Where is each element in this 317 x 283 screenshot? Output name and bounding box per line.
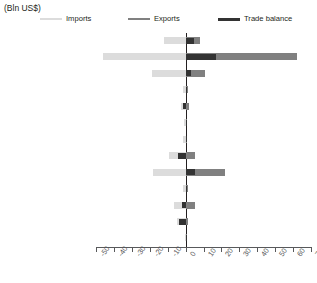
bar-imports — [152, 70, 186, 77]
x-tick — [221, 247, 222, 252]
chart-row: Sub-Saharan Africa — [96, 132, 311, 148]
bar-trade-balance — [186, 136, 187, 142]
chart-row: Developed N. America — [96, 66, 311, 82]
x-tick-label: 20 — [223, 246, 235, 258]
legend-swatch-imports — [40, 18, 62, 20]
chart-row: Latin Am, Caribbean — [96, 148, 311, 164]
x-tick — [293, 247, 294, 252]
chart-legend: Imports Exports Trade balance — [40, 13, 315, 25]
x-tick — [150, 247, 151, 252]
bar-trade-balance — [178, 153, 185, 159]
x-tick-label: 10 — [206, 246, 218, 258]
x-tick-label: 50 — [277, 246, 289, 258]
x-tick — [114, 247, 115, 252]
plot-area: Developed Asia-PacificDeveloped EuropeDe… — [96, 33, 311, 247]
x-tick — [96, 247, 97, 252]
bar-trade-balance — [186, 54, 216, 60]
chart-row: Eastern Asia — [96, 165, 311, 181]
x-tick-label: 70 — [313, 246, 317, 258]
bar-imports — [164, 37, 186, 44]
bar-trade-balance — [186, 38, 194, 44]
x-tick — [257, 247, 258, 252]
x-tick — [204, 247, 205, 252]
x-tick-label: 60 — [295, 246, 307, 258]
x-tick-label: 40 — [259, 246, 271, 258]
chart-row: South-eastern Europe — [96, 82, 311, 98]
bar-trade-balance — [183, 103, 186, 109]
bar-trade-balance — [186, 235, 187, 241]
bar-exports — [186, 202, 195, 209]
chart-row: Developed Europe — [96, 49, 311, 65]
bar-trade-balance — [182, 202, 186, 208]
chart-row: Oceania — [96, 231, 311, 247]
bar-exports — [186, 103, 190, 110]
bar-trade-balance — [186, 70, 191, 76]
x-tick — [311, 247, 312, 252]
bar-trade-balance — [186, 120, 187, 126]
legend-swatch-trade-balance — [218, 18, 240, 21]
x-tick — [239, 247, 240, 252]
legend-label-trade-balance: Trade balance — [244, 13, 292, 25]
bar-exports — [186, 152, 195, 159]
x-tick — [132, 247, 133, 252]
chart-row: C I S — [96, 99, 311, 115]
x-tick-label: 0 — [188, 250, 198, 259]
legend-item-exports: Exports — [128, 13, 180, 25]
legend-item-trade-balance: Trade balance — [218, 13, 292, 25]
bar-trade-balance — [179, 219, 185, 225]
x-tick-label: 30 — [241, 246, 253, 258]
x-tick — [168, 247, 169, 252]
chart-row: Western Asia — [96, 214, 311, 230]
legend-label-imports: Imports — [66, 13, 91, 25]
chart-row: Southern Asia — [96, 181, 311, 197]
bar-trade-balance — [186, 169, 195, 175]
chart-row: Developed Asia-Pacific — [96, 33, 311, 49]
trade-balance-chart: (Bln US$) Imports Exports Trade balance … — [0, 0, 317, 283]
chart-row: South-eastern Asia — [96, 198, 311, 214]
legend-label-exports: Exports — [154, 13, 180, 25]
bar-trade-balance — [186, 87, 187, 93]
bar-imports — [103, 53, 185, 60]
bar-imports — [153, 169, 185, 176]
x-tick — [186, 247, 187, 252]
legend-swatch-exports — [128, 18, 150, 20]
x-tick — [275, 247, 276, 252]
bar-exports — [186, 218, 189, 225]
chart-row: Northern Africa — [96, 115, 311, 131]
legend-item-imports: Imports — [40, 13, 91, 25]
unit-label: (Bln US$) — [4, 3, 41, 13]
bar-trade-balance — [186, 186, 187, 192]
